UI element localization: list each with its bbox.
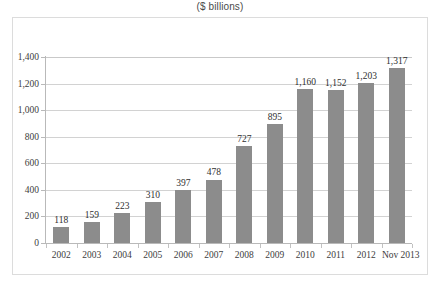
bar[interactable] (267, 124, 283, 243)
gridline (46, 57, 412, 58)
bar-value-label: 1,160 (288, 77, 322, 87)
x-axis-tick-label: Nov 2013 (375, 250, 427, 261)
x-axis-tick (412, 244, 413, 248)
y-axis-tick (41, 137, 46, 138)
bar-value-label: 118 (44, 215, 78, 225)
bar-value-label: 310 (136, 190, 170, 200)
y-axis-tick (41, 57, 46, 58)
bar-value-label: 1,317 (380, 56, 414, 66)
y-axis-tick-label: 200 (1, 211, 39, 221)
x-axis-tick (382, 244, 383, 248)
x-axis-tick (46, 244, 47, 248)
gridline (46, 84, 412, 85)
x-axis-tick (138, 244, 139, 248)
x-axis-tick (168, 244, 169, 248)
bar-value-label: 1,203 (349, 71, 383, 81)
bar[interactable] (358, 83, 374, 243)
gridline (46, 110, 412, 111)
bar[interactable] (206, 180, 222, 244)
y-axis-tick-label: 600 (1, 158, 39, 168)
bar-value-label: 223 (105, 201, 139, 211)
bar-value-label: 1,152 (319, 78, 353, 88)
bar-value-label: 159 (75, 210, 109, 220)
y-axis-tick (41, 84, 46, 85)
x-axis-tick (77, 244, 78, 248)
bar[interactable] (145, 202, 161, 243)
bar[interactable] (236, 146, 252, 243)
y-axis-tick (41, 163, 46, 164)
y-axis-tick-label: 800 (1, 132, 39, 142)
bar[interactable] (53, 227, 69, 243)
x-axis-tick (229, 244, 230, 248)
bar[interactable] (328, 90, 344, 243)
bar[interactable] (114, 213, 130, 243)
bar-value-label: 478 (197, 167, 231, 177)
y-axis-tick-label: 400 (1, 185, 39, 195)
y-axis-tick (41, 190, 46, 191)
bar[interactable] (175, 190, 191, 243)
x-axis-tick (321, 244, 322, 248)
y-axis-tick-label: 1,000 (1, 105, 39, 115)
gridline (46, 190, 412, 191)
bar-value-label: 397 (166, 178, 200, 188)
gridline (46, 163, 412, 164)
bar-value-label: 895 (258, 112, 292, 122)
bar[interactable] (84, 222, 100, 243)
chart-title: ($ billions) (0, 1, 440, 12)
y-axis-tick-label: 1,400 (1, 52, 39, 62)
bar[interactable] (389, 68, 405, 243)
y-axis-labels: 1,4001,2001,0008006004002000 (0, 0, 39, 286)
x-axis-tick (199, 244, 200, 248)
x-axis-tick (260, 244, 261, 248)
y-axis-tick (41, 110, 46, 111)
bar-value-label: 727 (227, 134, 261, 144)
x-axis-tick (107, 244, 108, 248)
y-axis-tick-label: 0 (1, 238, 39, 248)
y-axis-tick-label: 1,200 (1, 79, 39, 89)
x-axis-tick (351, 244, 352, 248)
bar[interactable] (297, 89, 313, 243)
x-axis-tick (290, 244, 291, 248)
